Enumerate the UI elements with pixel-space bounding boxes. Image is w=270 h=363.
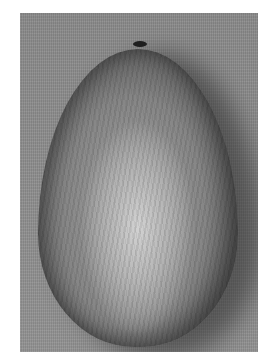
- seed-tip: [133, 41, 147, 47]
- seed-photo: [20, 13, 258, 352]
- seed-surface-texture: [38, 49, 238, 347]
- seed: [38, 49, 238, 347]
